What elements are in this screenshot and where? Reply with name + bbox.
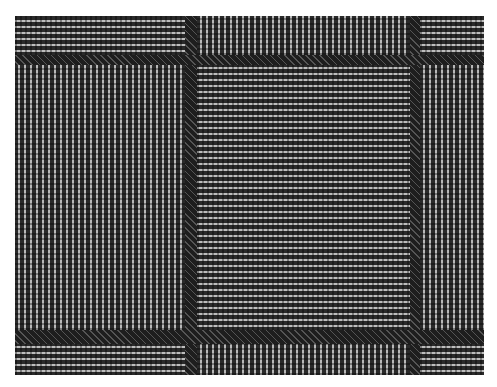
fabric-region-bottom-right bbox=[420, 344, 484, 375]
fabric-band-horizontal-bottom bbox=[15, 330, 484, 344]
fabric-region-bottom-center bbox=[197, 344, 410, 375]
fabric-region-top-center bbox=[197, 16, 410, 55]
fabric-band bbox=[410, 344, 420, 375]
fabric-region-middle-center bbox=[197, 65, 410, 330]
fabric-region-top-left bbox=[15, 16, 185, 55]
fabric-band bbox=[410, 16, 420, 55]
fabric-region-bottom-left bbox=[15, 344, 185, 375]
fabric-band-vertical-left bbox=[185, 65, 197, 330]
fabric-band bbox=[185, 16, 197, 55]
fabric-band-horizontal-top bbox=[15, 55, 484, 65]
fabric-band bbox=[185, 344, 197, 375]
fabric-band-vertical-right bbox=[410, 65, 420, 330]
fabric-region-middle-right bbox=[420, 65, 484, 330]
fabric-region-top-right bbox=[420, 16, 484, 55]
fabric-region-middle-left bbox=[15, 65, 185, 330]
fabric-photo bbox=[15, 16, 484, 375]
